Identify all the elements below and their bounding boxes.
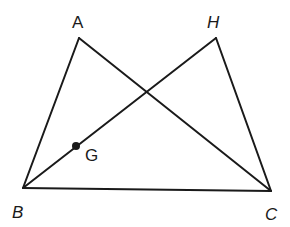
segment-bc (23, 188, 271, 191)
point-g-dot (72, 142, 80, 150)
label-b: B (12, 203, 23, 222)
label-g: G (85, 146, 98, 165)
label-a: A (72, 13, 84, 32)
label-h: H (207, 13, 220, 32)
geometry-diagram: A H B C G (0, 0, 290, 227)
segment-ac (79, 38, 271, 191)
label-c: C (265, 205, 278, 224)
